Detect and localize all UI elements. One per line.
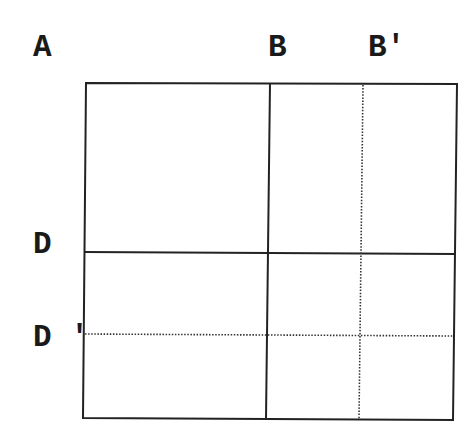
- label-b-prime: B′: [368, 32, 405, 63]
- line-d-prime: [85, 334, 454, 336]
- label-d-prime: D ′: [33, 322, 89, 353]
- line-b: [266, 83, 270, 419]
- partition-diagram: A B B′ D D ′: [0, 0, 475, 434]
- label-a: A: [33, 32, 52, 63]
- diagram-canvas: [0, 0, 475, 434]
- line-d: [84, 252, 455, 254]
- line-b-prime: [359, 85, 363, 419]
- label-b: B: [268, 32, 287, 63]
- label-d: D: [33, 229, 52, 260]
